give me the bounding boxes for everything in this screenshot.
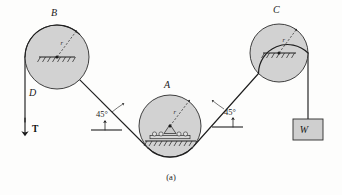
angle-marker-right: 45° [212,101,243,127]
cable-segment-b-to-a [80,80,148,148]
cable-label-d: D [28,87,37,98]
weight-block-w: W [293,119,323,140]
figure-caption: (a) [166,172,176,182]
pulley-label-c: C [273,4,280,15]
pulley-a: r A [139,79,201,157]
pulley-system-diagram: r B [0,0,342,195]
pulley-c: r C [250,4,308,82]
angle-marker-left: 45° [91,104,123,130]
figure-container: r B [0,0,342,195]
angle-label-right: 45° [224,107,236,117]
pulley-label-a: A [163,79,171,90]
pulley-label-b: B [51,7,57,18]
tension-label-t: T [32,124,39,134]
force-d-t: D T [28,87,39,134]
pulley-b: r B [25,7,89,89]
angle-label-left: 45° [96,109,108,119]
